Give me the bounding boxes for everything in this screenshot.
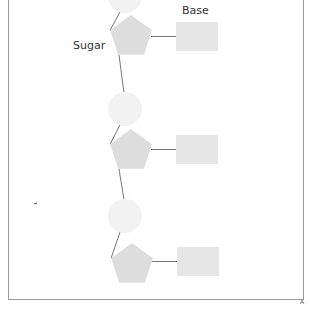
base-rectangle [176,135,218,164]
sugar-label: Sugar [73,39,105,52]
corner-mark: A [300,298,304,305]
sugar-pentagon [111,243,153,283]
base-label: Base [182,4,209,17]
phosphate-circle [108,199,142,233]
sugar-pentagon [110,15,152,55]
base-rectangle [177,247,219,276]
phosphate-circle [108,0,142,13]
phosphate-circle [108,92,142,126]
base-rectangle [176,22,218,51]
sugar-phosphate-bond [119,169,124,200]
sugar-pentagon [110,129,152,169]
stray-mark [34,203,37,204]
nucleotide-chain-diagram [0,0,310,311]
sugar-phosphate-bond [119,55,124,93]
